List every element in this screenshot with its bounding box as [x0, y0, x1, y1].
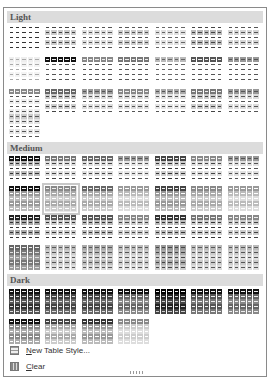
table-style-light-5[interactable] [154, 25, 186, 51]
table-style-medium-23[interactable] [45, 245, 77, 271]
table-style-medium-20[interactable] [191, 215, 223, 241]
table-style-light-11[interactable] [118, 57, 150, 83]
table-style-medium-18[interactable] [118, 215, 150, 241]
section-header-dark: Dark [7, 274, 263, 286]
table-style-dark-6[interactable] [191, 289, 223, 315]
section-header-light: Light [7, 11, 263, 23]
table-style-dark-2[interactable] [45, 289, 77, 315]
table-style-medium-2[interactable] [45, 156, 77, 182]
table-style-light-20[interactable] [191, 89, 223, 115]
clear-button[interactable]: Clear [10, 359, 45, 373]
table-style-medium-1[interactable] [8, 156, 40, 182]
new-table-style-button[interactable]: New Table Style... [10, 343, 90, 357]
table-style-medium-12[interactable] [154, 186, 186, 212]
table-style-light-14[interactable] [227, 57, 259, 83]
table-style-medium-7[interactable] [227, 156, 259, 182]
table-style-light-21[interactable] [227, 89, 259, 115]
table-style-medium-16[interactable] [45, 215, 77, 241]
table-style-light-2[interactable] [45, 25, 77, 51]
table-style-dark-3[interactable] [81, 289, 113, 315]
table-style-dark-5[interactable] [154, 289, 186, 315]
table-style-light-9[interactable] [45, 57, 77, 83]
table-style-medium-4[interactable] [118, 156, 150, 182]
table-style-medium-28[interactable] [227, 245, 259, 271]
table-style-light-10[interactable] [81, 57, 113, 83]
table-style-dark-8[interactable] [8, 319, 40, 345]
table-style-light-7[interactable] [227, 25, 259, 51]
table-style-medium-14[interactable] [227, 186, 259, 212]
table-style-medium-24[interactable] [81, 245, 113, 271]
table-style-medium-13[interactable] [191, 186, 223, 212]
table-style-medium-21[interactable] [227, 215, 259, 241]
table-style-medium-26[interactable] [154, 245, 186, 271]
table-style-light-8[interactable] [8, 57, 40, 83]
table-style-dark-9[interactable] [45, 319, 77, 345]
table-style-dark-4[interactable] [118, 289, 150, 315]
resize-grip[interactable] [130, 371, 144, 374]
new-table-style-label: New Table Style... [26, 346, 90, 355]
table-style-medium-3[interactable] [81, 156, 113, 182]
table-style-medium-17[interactable] [81, 215, 113, 241]
table-style-medium-22[interactable] [8, 245, 40, 271]
clear-icon [10, 362, 19, 371]
table-style-medium-15[interactable] [8, 215, 40, 241]
table-style-dark-7[interactable] [227, 289, 259, 315]
section-header-medium: Medium [7, 142, 263, 154]
table-style-light-22[interactable] [8, 114, 40, 140]
table-style-light-1[interactable] [8, 25, 40, 51]
table-style-dark-10[interactable] [81, 319, 113, 345]
table-style-medium-9[interactable] [45, 186, 77, 212]
table-style-light-4[interactable] [118, 25, 150, 51]
table-style-medium-8[interactable] [8, 186, 40, 212]
table-style-light-6[interactable] [191, 25, 223, 51]
table-style-medium-11[interactable] [118, 186, 150, 212]
table-style-medium-19[interactable] [154, 215, 186, 241]
table-style-light-18[interactable] [118, 89, 150, 115]
table-style-light-12[interactable] [154, 57, 186, 83]
table-style-light-13[interactable] [191, 57, 223, 83]
table-style-dark-1[interactable] [8, 289, 40, 315]
table-style-light-3[interactable] [81, 25, 113, 51]
clear-label: Clear [26, 362, 45, 371]
table-style-light-16[interactable] [45, 89, 77, 115]
table-style-gallery: Light Medium Dark New Table Style... Cle… [3, 7, 267, 377]
table-style-medium-5[interactable] [154, 156, 186, 182]
table-style-light-17[interactable] [81, 89, 113, 115]
table-style-dark-11[interactable] [118, 319, 150, 345]
table-style-light-15[interactable] [8, 89, 40, 115]
table-style-light-19[interactable] [154, 89, 186, 115]
table-style-icon [10, 346, 19, 355]
table-style-medium-25[interactable] [118, 245, 150, 271]
table-style-medium-10[interactable] [81, 186, 113, 212]
table-style-medium-6[interactable] [191, 156, 223, 182]
table-style-medium-27[interactable] [191, 245, 223, 271]
